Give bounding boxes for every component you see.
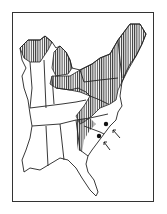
arrows [104, 130, 120, 150]
dot-marker [104, 122, 108, 126]
arrow-icon [113, 130, 120, 138]
eastern-us-range-map [0, 0, 167, 214]
arrow-icon [104, 142, 110, 150]
dot-marker [97, 134, 101, 138]
hatched-range [20, 24, 146, 152]
